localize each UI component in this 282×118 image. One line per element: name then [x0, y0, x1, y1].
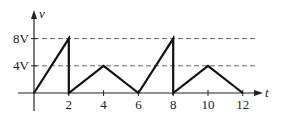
y-tick-label: 4V [13, 58, 30, 73]
x-tick-label: 6 [135, 97, 142, 112]
reference-dashed-lines [34, 39, 258, 66]
x-tick-label: 4 [100, 97, 107, 112]
x-tick-label: 8 [170, 97, 177, 112]
x-axis-label: t [265, 85, 269, 100]
voltage-waveform-chart: 246810124V8V v t [0, 0, 282, 118]
x-tick-label: 2 [66, 97, 73, 112]
x-tick-label: 10 [202, 97, 215, 112]
y-axis-arrow-icon [31, 10, 37, 19]
y-axis-label: v [39, 6, 45, 21]
x-tick-label: 12 [236, 97, 249, 112]
y-tick-label: 8V [13, 31, 30, 46]
x-axis-arrow-icon [254, 90, 263, 96]
